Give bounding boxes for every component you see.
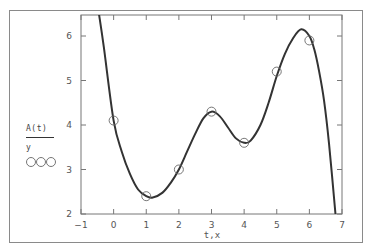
- x-tick-label: 5: [274, 220, 280, 230]
- x-tick-label: −1: [74, 220, 87, 230]
- x-tick-label: 0: [111, 220, 117, 230]
- legend-line-swatch: [26, 137, 54, 138]
- x-tick-label: 4: [241, 220, 247, 230]
- plot-box: [81, 15, 342, 214]
- y-tick-label: 4: [66, 120, 72, 130]
- x-tick-label: 2: [176, 220, 182, 230]
- x-tick-label: 3: [209, 220, 215, 230]
- legend-marker-swatch: [26, 156, 60, 168]
- y-tick-label: 5: [66, 76, 72, 86]
- x-tick-label: 6: [307, 220, 313, 230]
- legend: A(t) y: [26, 124, 56, 172]
- y-tick-label: 6: [66, 31, 72, 41]
- legend-marker-label: y: [26, 143, 56, 153]
- plot-area: −10123456723456t,x: [0, 0, 374, 251]
- x-tick-label: 1: [143, 220, 149, 230]
- legend-line-label: A(t): [26, 124, 56, 134]
- fit-curve-line: [99, 14, 336, 214]
- y-tick-label: 3: [66, 165, 72, 175]
- x-tick-label: 7: [339, 220, 345, 230]
- y-tick-label: 2: [66, 209, 72, 219]
- x-axis-label: t,x: [204, 230, 221, 240]
